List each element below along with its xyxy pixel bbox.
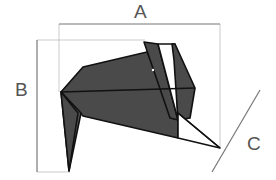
origami-shape — [61, 42, 220, 171]
label-c: C — [247, 134, 261, 153]
dimension-c-line — [212, 90, 260, 172]
label-b: B — [15, 80, 28, 99]
label-a: A — [134, 2, 147, 21]
origami-diagram — [0, 0, 276, 180]
